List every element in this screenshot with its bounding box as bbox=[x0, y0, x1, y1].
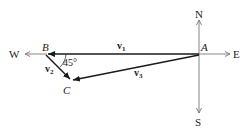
v2-sub: 2 bbox=[50, 68, 54, 76]
west-label: W bbox=[9, 48, 20, 60]
compass-axes bbox=[25, 20, 230, 113]
v3-sub: 3 bbox=[139, 72, 143, 80]
vector-v1-label: v1 bbox=[117, 40, 126, 53]
vector-diagram: N S E W A B C 45° v1 v2 v3 bbox=[0, 0, 248, 138]
vector-v3-label: v3 bbox=[134, 67, 143, 80]
v1-sub: 1 bbox=[122, 45, 126, 53]
south-label: S bbox=[195, 116, 201, 128]
vector-v2-label: v2 bbox=[45, 63, 54, 76]
north-label: N bbox=[195, 8, 203, 20]
point-b-label: B bbox=[42, 41, 49, 53]
point-a-label: A bbox=[200, 41, 208, 53]
angle-label: 45° bbox=[63, 57, 77, 68]
point-c-label: C bbox=[63, 84, 71, 96]
east-label: E bbox=[233, 48, 240, 60]
